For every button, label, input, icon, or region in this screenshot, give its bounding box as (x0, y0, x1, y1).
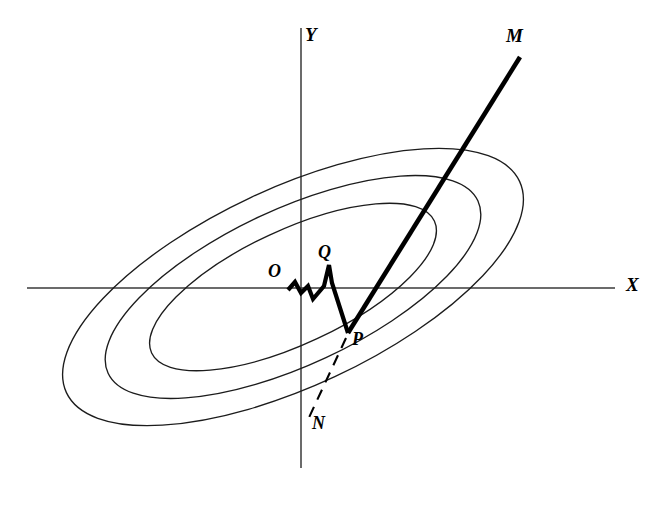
random-walk-path (288, 265, 348, 333)
point-label-o: O (268, 262, 281, 280)
point-label-p: P (352, 330, 363, 348)
x-axis-label: X (626, 275, 639, 294)
y-axis-label: Y (305, 25, 317, 44)
point-label-m: M (506, 26, 523, 45)
point-label-n: N (312, 414, 325, 432)
point-label-q: Q (318, 243, 331, 261)
figure-svg (0, 0, 666, 505)
figure-canvas: Y X O Q P M N (0, 0, 666, 505)
ray-to-m-line (348, 57, 520, 333)
